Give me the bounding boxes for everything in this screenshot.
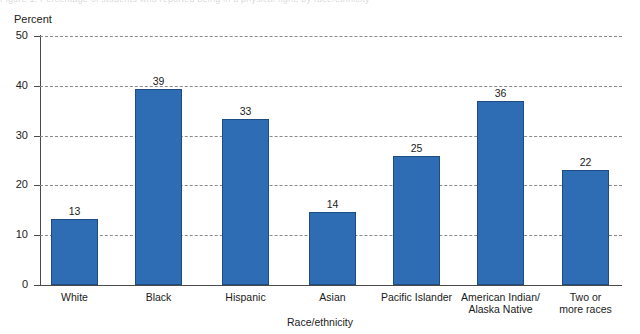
bar (309, 212, 356, 285)
x-axis-title: Race/ethnicity (0, 316, 640, 328)
y-axis-tick-label: 40 (2, 79, 28, 91)
bar-value-label: 39 (120, 75, 197, 87)
bar-chart: Percent 01020304050 13393314253622 White… (0, 0, 640, 334)
x-axis-category-label: Two or more races (530, 292, 640, 315)
y-axis-line (40, 35, 41, 286)
bar (477, 101, 524, 285)
y-axis-title: Percent (14, 13, 52, 25)
bar-value-label: 33 (207, 105, 284, 117)
bar (393, 156, 440, 285)
bar (222, 119, 269, 285)
y-axis-tick-mark (34, 86, 40, 87)
y-axis-tick-mark (34, 136, 40, 137)
bar (562, 170, 609, 285)
gridline (40, 185, 622, 186)
bar-value-label: 14 (294, 198, 371, 210)
y-axis-tick-mark (34, 185, 40, 186)
gridline (40, 36, 622, 37)
y-axis-tick-label: 10 (2, 228, 28, 240)
y-axis-tick-mark (34, 36, 40, 37)
bar-value-label: 13 (36, 205, 113, 217)
x-axis-line (40, 285, 622, 286)
y-axis-tick-mark (34, 285, 40, 286)
y-axis-tick-mark (34, 235, 40, 236)
bar-value-label: 25 (378, 142, 455, 154)
y-axis-tick-label: 30 (2, 129, 28, 141)
bar (135, 89, 182, 285)
gridline (40, 136, 622, 137)
y-axis-tick-label: 0 (2, 278, 28, 290)
bar (51, 219, 98, 285)
y-axis-tick-label: 50 (2, 29, 28, 41)
bar-value-label: 22 (547, 156, 624, 168)
bar-value-label: 36 (462, 87, 539, 99)
y-axis-tick-label: 20 (2, 178, 28, 190)
